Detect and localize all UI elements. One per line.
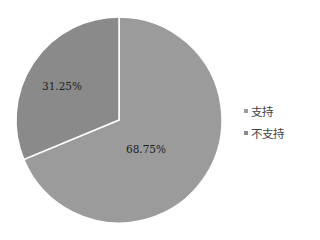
legend-item-support: 支持 (244, 100, 284, 122)
legend-label: 支持 (251, 103, 273, 119)
legend-swatch-icon (244, 109, 248, 113)
slice-percent-label: 31.25% (42, 80, 82, 92)
legend-item-not-support: 不支持 (244, 122, 284, 144)
slice-percent-label: 68.75% (126, 143, 166, 155)
legend-swatch-icon (244, 131, 248, 135)
legend: 支持 不支持 (244, 100, 284, 144)
legend-label: 不支持 (251, 125, 284, 141)
